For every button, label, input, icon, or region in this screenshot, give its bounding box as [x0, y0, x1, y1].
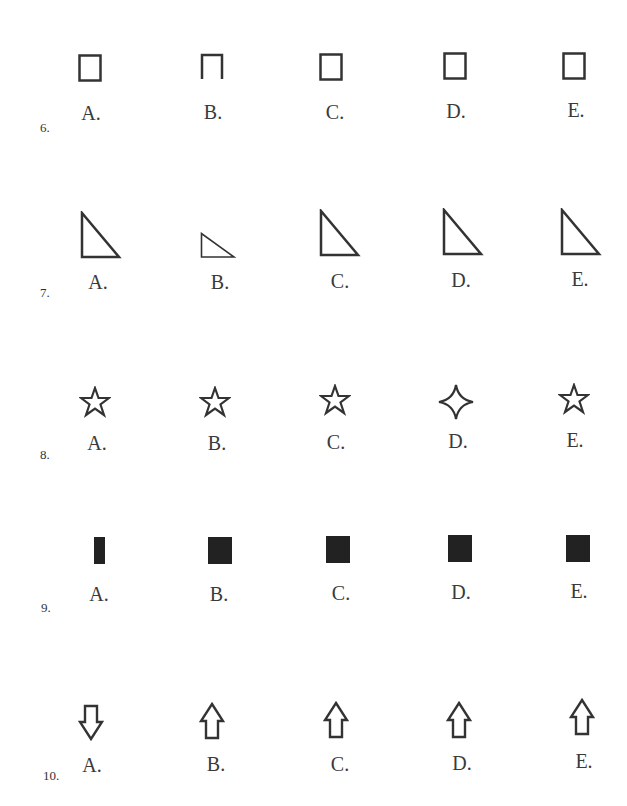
option-label-d[interactable]: D. — [452, 753, 471, 773]
arrow-up-icon — [446, 701, 472, 739]
square-outline-icon — [319, 53, 343, 81]
option-label-a[interactable]: A. — [87, 433, 106, 453]
question-number: 6. — [40, 121, 50, 134]
filled-square-icon — [448, 535, 472, 562]
question-number: 7. — [40, 286, 50, 299]
option-label-a[interactable]: A. — [88, 272, 107, 292]
worksheet-page: 6. A. B. C. D. E. 7. A. B. — [0, 0, 627, 806]
option-label-b[interactable]: B. — [204, 102, 222, 122]
filled-narrow-rectangle-icon — [94, 537, 105, 564]
small-right-triangle-icon — [200, 232, 237, 259]
option-label-b[interactable]: B. — [208, 433, 226, 453]
four-point-star-icon — [437, 383, 475, 421]
option-label-c[interactable]: C. — [332, 583, 350, 603]
five-point-star-icon — [558, 383, 590, 415]
arrow-up-icon — [199, 702, 225, 740]
option-label-b[interactable]: B. — [207, 754, 225, 774]
option-label-a[interactable]: A. — [81, 103, 100, 123]
option-label-c[interactable]: C. — [331, 754, 349, 774]
option-label-a[interactable]: A. — [89, 584, 108, 604]
question-number: 9. — [41, 601, 51, 614]
filled-square-icon — [566, 535, 590, 562]
five-point-star-icon — [199, 386, 231, 418]
option-label-c[interactable]: C. — [327, 432, 345, 452]
option-label-b[interactable]: B. — [210, 584, 228, 604]
option-label-c[interactable]: C. — [326, 102, 344, 122]
right-triangle-icon — [560, 208, 602, 256]
option-label-e[interactable]: E. — [570, 581, 587, 601]
right-triangle-icon — [319, 209, 361, 257]
right-triangle-icon — [442, 208, 484, 256]
square-open-bottom-icon — [200, 53, 224, 79]
arrow-up-icon — [323, 701, 349, 739]
question-number: 10. — [43, 769, 59, 782]
arrow-up-icon — [569, 698, 595, 736]
option-label-e[interactable]: E. — [571, 269, 588, 289]
filled-square-icon — [326, 536, 350, 563]
square-outline-icon — [562, 52, 586, 80]
option-label-d[interactable]: D. — [451, 582, 470, 602]
option-label-d[interactable]: D. — [446, 101, 465, 121]
option-label-e[interactable]: E. — [575, 751, 592, 771]
option-label-a[interactable]: A. — [82, 755, 101, 775]
arrow-down-icon — [78, 704, 104, 742]
option-label-d[interactable]: D. — [448, 431, 467, 451]
question-number: 8. — [40, 448, 50, 461]
option-label-e[interactable]: E. — [567, 100, 584, 120]
filled-square-icon — [208, 537, 232, 564]
option-label-b[interactable]: B. — [211, 272, 229, 292]
option-label-d[interactable]: D. — [451, 270, 470, 290]
square-outline-icon — [78, 54, 102, 82]
option-label-e[interactable]: E. — [566, 430, 583, 450]
option-label-c[interactable]: C. — [331, 271, 349, 291]
right-triangle-icon — [80, 211, 122, 259]
five-point-star-icon — [319, 384, 351, 416]
square-outline-icon — [443, 52, 467, 80]
five-point-star-icon — [79, 386, 111, 418]
